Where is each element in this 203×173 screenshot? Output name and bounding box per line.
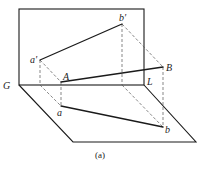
line-a-prime-b-prime [40, 24, 122, 60]
label-a: a [57, 107, 62, 118]
projector-axis-to-a [40, 85, 61, 106]
label-a-prime: a' [30, 54, 38, 65]
label-G: G [3, 80, 10, 91]
label-b-prime: b′ [119, 12, 127, 23]
figure-caption: (a) [95, 150, 105, 160]
label-L: L [146, 76, 153, 87]
projector-a-prime-to-A [40, 60, 61, 82]
projector-axis-to-b [122, 85, 163, 127]
label-B: B [166, 62, 172, 73]
label-A: A [62, 71, 70, 82]
label-b: b [165, 124, 170, 135]
line-ab [61, 106, 163, 127]
projector-b-prime-to-B [122, 24, 163, 67]
projection-diagram: G L A B a b a' b′ (a) [0, 0, 203, 173]
